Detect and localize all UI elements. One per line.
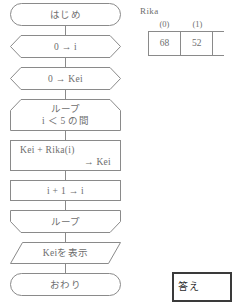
flow-node-start-label: はじめ [50,9,81,21]
rika-array-table: Rika (0) (1) 68 52 [139,6,229,56]
connector-init-i-to-init-kei [10,58,121,67]
rika-value-1: 52 [181,32,213,55]
connector-increment-to-loop-end [10,201,121,210]
rika-index-0: (0) [148,18,181,30]
flow-node-display: Keiを表示 [10,242,121,264]
connector-accumulate-to-increment [10,171,121,180]
flow-node-display-label: Keiを表示 [43,247,89,259]
flow-node-loop-start-label: ループ [51,103,81,115]
flow-node-loop-end: ループ [10,210,121,233]
connector-loop-end-to-display [10,233,121,242]
flow-node-increment: i + 1 → i [10,180,121,201]
flow-node-loop-end-label: ループ [51,216,81,228]
rika-index-row: (0) (1) [139,18,229,30]
answer-box[interactable]: 答え [172,272,232,302]
flow-node-init-kei-label: 0 → Kei [48,73,83,85]
rika-value-row: 68 52 [148,31,224,56]
flow-node-increment-label: i + 1 → i [11,185,120,197]
flow-node-accumulate-label-1: Kei + Rika(i) [11,144,120,156]
flow-node-end-label: おわり [50,279,81,291]
answer-box-label: 答え [174,274,230,300]
flow-node-loop-start: ループ i ＜ 5 の間 [10,99,121,131]
connector-loop-start-to-accumulate [10,131,121,140]
rika-index-1: (1) [181,18,214,30]
flow-node-accumulate: Kei + Rika(i) → Kei [10,140,121,171]
connector-start-to-init-i [10,26,121,35]
rika-value-0: 68 [149,32,181,55]
flow-node-loop-start-condition: i ＜ 5 の間 [42,115,89,127]
flowchart: はじめ 0 → i 0 → Kei ループ i ＜ 5 の間 [10,3,121,296]
flow-node-end: おわり [10,273,121,296]
flow-node-start: はじめ [10,3,121,26]
connector-display-to-end [10,264,121,273]
rika-value-clipped [213,32,224,55]
flow-node-init-i: 0 → i [10,35,121,58]
flow-node-accumulate-label-2: → Kei [11,156,120,168]
flow-node-init-kei: 0 → Kei [10,67,121,90]
connector-init-kei-to-loop-start [10,90,121,99]
flow-node-init-i-label: 0 → i [54,41,77,53]
rika-array-name: Rika [139,6,229,17]
